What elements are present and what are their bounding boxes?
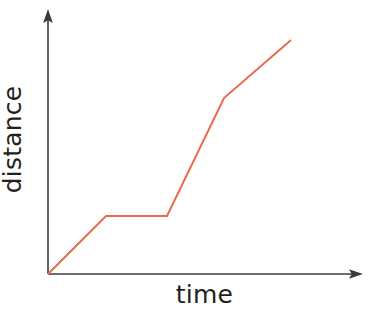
- chart-canvas: [0, 0, 369, 311]
- series-line-journey: [48, 40, 291, 274]
- distance-time-chart: distance time: [0, 0, 369, 311]
- y-axis-label: distance: [0, 0, 50, 311]
- y-axis-label-text: distance: [1, 86, 26, 194]
- x-axis-label-text: time: [176, 280, 233, 309]
- x-axis-label: time: [0, 282, 369, 307]
